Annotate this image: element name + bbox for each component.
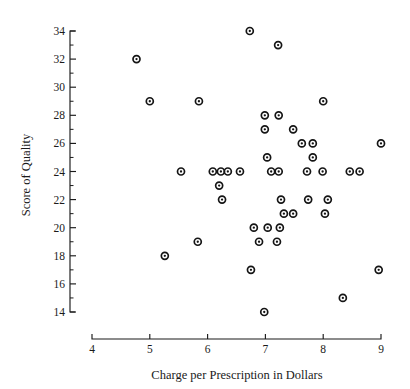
data-point-center-dot — [258, 241, 260, 243]
y-axis-tick-label: 30 — [54, 81, 66, 93]
data-point-center-dot — [358, 170, 360, 172]
data-point-center-dot — [278, 170, 280, 172]
data-point-center-dot — [267, 227, 269, 229]
data-point-center-dot — [253, 227, 255, 229]
data-point-center-dot — [277, 44, 279, 46]
data-point-center-dot — [292, 213, 294, 215]
data-point-center-dot — [212, 170, 214, 172]
y-axis-tick-label: 22 — [54, 194, 66, 206]
x-axis-tick-label: 4 — [89, 343, 95, 355]
data-point-center-dot — [249, 30, 251, 32]
data-point-center-dot — [306, 170, 308, 172]
y-axis-tick-label: 26 — [54, 137, 66, 149]
y-axis-title: Score of Quality — [19, 133, 33, 216]
data-point-center-dot — [220, 170, 222, 172]
data-point-center-dot — [264, 128, 266, 130]
data-point-center-dot — [180, 170, 182, 172]
y-axis-tick-label: 14 — [54, 306, 66, 318]
data-point-center-dot — [292, 128, 294, 130]
y-axis-tick-label: 20 — [54, 222, 66, 234]
x-axis-tick-label: 9 — [378, 343, 384, 355]
data-point-center-dot — [349, 170, 351, 172]
data-point-center-dot — [198, 100, 200, 102]
data-point-center-dot — [221, 198, 223, 200]
data-point-center-dot — [321, 170, 323, 172]
plot-canvas: 1416182022242628303234 456789 Score of Q… — [0, 0, 410, 389]
y-axis-tick-label: 32 — [54, 53, 66, 65]
data-point-center-dot — [218, 184, 220, 186]
data-point-center-dot — [250, 269, 252, 271]
data-point-center-dot — [270, 170, 272, 172]
data-point-center-dot — [276, 241, 278, 243]
data-point-center-dot — [279, 227, 281, 229]
data-point-center-dot — [324, 213, 326, 215]
y-axis-tick-label: 18 — [54, 250, 66, 262]
x-axis-title: Charge per Prescription in Dollars — [151, 368, 322, 382]
data-point-center-dot — [307, 198, 309, 200]
data-point-center-dot — [301, 142, 303, 144]
data-point-center-dot — [266, 156, 268, 158]
data-point-center-dot — [164, 255, 166, 257]
x-axis-tick-label: 6 — [205, 343, 211, 355]
data-point-center-dot — [135, 58, 137, 60]
data-point-center-dot — [264, 114, 266, 116]
data-point-center-dot — [312, 156, 314, 158]
data-point-center-dot — [327, 198, 329, 200]
data-point-center-dot — [278, 114, 280, 116]
data-point-center-dot — [239, 170, 241, 172]
data-point-center-dot — [378, 269, 380, 271]
x-axis-tick-label: 5 — [147, 343, 153, 355]
data-point-center-dot — [380, 142, 382, 144]
data-point-center-dot — [197, 241, 199, 243]
data-point-center-dot — [263, 311, 265, 313]
x-axis-tick-label: 7 — [263, 343, 269, 355]
data-point-center-dot — [227, 170, 229, 172]
y-axis-tick-label: 16 — [54, 278, 66, 290]
y-axis-tick-label: 28 — [54, 109, 66, 121]
data-point-center-dot — [149, 100, 151, 102]
data-point-center-dot — [342, 297, 344, 299]
data-point-center-dot — [312, 142, 314, 144]
y-axis-tick-label: 24 — [54, 166, 66, 178]
data-point-center-dot — [280, 198, 282, 200]
data-point-center-dot — [283, 213, 285, 215]
scatter-plot-figure: 1416182022242628303234 456789 Score of Q… — [0, 0, 410, 389]
x-axis-tick-label: 8 — [320, 343, 326, 355]
data-point-center-dot — [322, 100, 324, 102]
y-axis-tick-label: 34 — [54, 25, 66, 37]
